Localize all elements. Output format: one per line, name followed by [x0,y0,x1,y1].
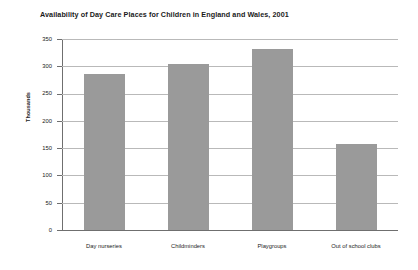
y-tick-label: 350 [12,36,52,42]
y-tick-label: 300 [12,63,52,69]
chart-title: Availability of Day Care Places for Chil… [40,10,289,19]
y-tick-label: 100 [12,172,52,178]
chart-figure: Availability of Day Care Places for Chil… [0,0,418,270]
y-tick-label: 0 [12,227,52,233]
bar [252,49,293,230]
y-tick-label: 150 [12,145,52,151]
y-tick-label: 250 [12,90,52,96]
plot-area [62,39,398,230]
gridline [62,39,398,40]
bar [336,144,377,230]
bar [168,64,209,230]
x-tick-label: Out of school clubs [296,243,416,249]
y-tick-label: 50 [12,200,52,206]
bar [84,74,125,230]
gridline [62,230,398,231]
y-tick-label: 200 [12,118,52,124]
gridline [62,66,398,67]
y-axis-title: Thousands [25,77,31,137]
